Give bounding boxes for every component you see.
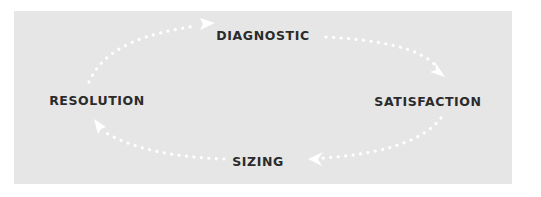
- arrow-diagnostic-to-satisfaction: [326, 37, 436, 66]
- arrow-resolution-to-diagnostic: [89, 26, 196, 82]
- arrowhead-to-resolution-icon: [94, 119, 106, 134]
- node-sizing: SIZING: [232, 154, 284, 169]
- arrowhead-to-sizing-icon: [308, 152, 323, 166]
- node-resolution: RESOLUTION: [49, 93, 145, 108]
- arrowhead-to-diagnostic-icon: [200, 18, 215, 30]
- arrow-satisfaction-to-sizing: [323, 118, 441, 158]
- arrow-sizing-to-resolution: [103, 131, 224, 159]
- node-diagnostic: DIAGNOSTIC: [216, 28, 309, 43]
- node-satisfaction: SATISFACTION: [374, 94, 481, 109]
